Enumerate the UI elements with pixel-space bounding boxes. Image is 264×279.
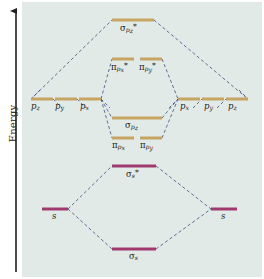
mo-label-sigma-s-star: σs* (126, 168, 139, 179)
ao-label-left-s: s (52, 211, 56, 221)
mo-label-pi-py-star: πpy* (139, 61, 156, 73)
connector-right-s-to-sigma-s-star (156, 166, 211, 209)
mo-label-pi-py: πpy (140, 140, 153, 151)
connector-left-pz-to-sigma-pz-star (31, 20, 112, 99)
mo-label-sigma-pz: σpz (125, 120, 138, 131)
molecular-orbital-levels (112, 20, 162, 249)
atomic-orbital-levels (31, 99, 248, 209)
ao-label-right-s: s (221, 211, 225, 221)
connector-stub-left-c (101, 99, 110, 108)
mo-diagram-figure: Energy pz py px px py pz s s σpz* πpx* π… (0, 0, 264, 279)
connector-right-pz-to-sigma-pz-star (154, 20, 248, 99)
energy-axis-label: Energy (7, 96, 18, 152)
connector-lines-p-block (31, 20, 248, 138)
connector-left-s-to-sigma-s-star (68, 166, 112, 209)
ao-label-left-py: py (55, 101, 64, 111)
diagram-canvas (0, 0, 264, 279)
ao-label-left-pz: pz (31, 101, 40, 111)
connector-right-to-sigma-pz (162, 99, 178, 118)
connector-left-to-sigma-pz (101, 99, 112, 118)
mo-label-pi-px: πpx (112, 140, 125, 151)
mo-label-sigma-pz-star: σpz* (120, 22, 137, 34)
ao-label-right-pz: pz (228, 101, 237, 111)
mo-label-sigma-s: σs (129, 251, 138, 261)
ao-label-right-py: py (204, 101, 213, 111)
connector-right-s-to-sigma-s (156, 209, 211, 249)
connector-right-to-pi-bonding (162, 99, 178, 138)
ao-label-left-px: px (80, 101, 89, 111)
connector-right-px-to-pi-star (162, 59, 178, 99)
mo-label-pi-px-star: πpx* (111, 61, 128, 73)
ao-label-right-px: px (180, 101, 189, 111)
connector-left-s-to-sigma-s (68, 209, 112, 249)
connector-lines-s-block (68, 166, 211, 249)
